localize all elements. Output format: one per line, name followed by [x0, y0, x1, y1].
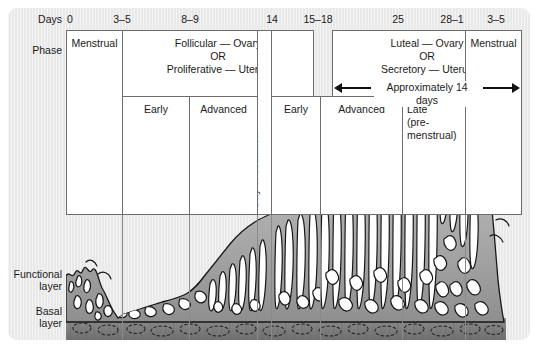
subphase-box-luteal-late-label: Late (pre- menstrual) [407, 103, 457, 142]
day-tick: 3–5 [113, 13, 131, 26]
phase-box-follicular-proliferative: Follicular — Ovary OR Proliferative — Ut… [122, 30, 314, 97]
arrow-bar-right [483, 87, 513, 89]
phase-box-menstrual-early-label: Menstrual [67, 37, 122, 50]
day-tick: 25 [392, 13, 404, 26]
arrow-bar-left [341, 87, 371, 89]
row-label-basal-layer: Basal layer [0, 305, 62, 329]
phase-box-menstrual-late-label: Menstrual [466, 37, 521, 50]
day-tick: 3–5 [487, 13, 505, 26]
arrow-right-icon [512, 83, 520, 93]
day-of-ovulation-label: Day of ovulation [257, 133, 259, 208]
phase-gridline [402, 215, 403, 340]
day-axis: 03–58–91415–182528–13–5 [0, 13, 538, 27]
phase-box-follicular-proliferative-label: Follicular — Ovary OR Proliferative — Ut… [123, 37, 313, 76]
subphase-box-follicular-early: Early [122, 96, 190, 215]
day-tick: 8–9 [181, 13, 199, 26]
phase-gridline [320, 215, 321, 340]
subphase-box-follicular-advanced-label: Advanced [190, 103, 257, 116]
day-tick: 15–18 [303, 13, 332, 26]
phase-gridline [271, 215, 272, 340]
phase-gridline [189, 215, 190, 340]
day-tick: 0 [67, 13, 73, 26]
phase-gridline [257, 215, 258, 340]
subphase-box-follicular-early-label: Early [123, 103, 189, 116]
subphase-box-luteal-advanced: Advanced [320, 96, 403, 215]
day-tick: 28–1 [440, 13, 463, 26]
subphase-box-follicular-advanced: Advanced [189, 96, 258, 215]
subphase-box-luteal-early-label: Early [272, 103, 320, 116]
subphase-box-luteal-late: Late (pre- menstrual) [402, 96, 466, 215]
menstrual-cycle-diagram: Days Phase Functional layer Basal layer … [0, 0, 538, 348]
approximately-14-days-label: Approximately 14 days [374, 81, 480, 107]
approximately-14-days-arrow: Approximately 14 days [334, 82, 520, 93]
phase-box-menstrual-early: Menstrual [66, 30, 123, 215]
phase-table: MenstrualFollicular — Ovary OR Prolifera… [66, 30, 522, 330]
day-tick: 14 [266, 13, 278, 26]
phase-box-menstrual-late: Menstrual [465, 30, 522, 215]
row-label-functional-layer: Functional layer [0, 268, 62, 292]
plot-area: MenstrualFollicular — Ovary OR Prolifera… [66, 30, 522, 340]
phase-gridline [465, 215, 466, 340]
row-label-phase: Phase [0, 44, 62, 56]
day-of-ovulation-column: Day of ovulation [257, 30, 272, 215]
subphase-box-luteal-early: Early [271, 96, 321, 215]
phase-gridline [122, 215, 123, 340]
